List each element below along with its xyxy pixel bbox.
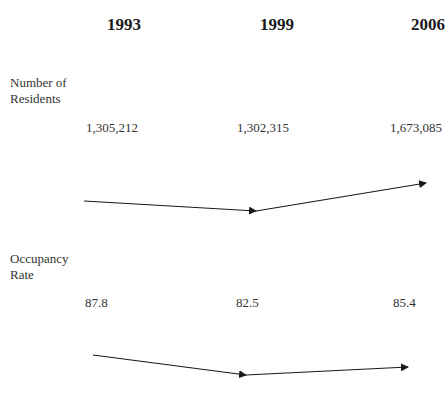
- occupancy-trend-arrow-down: [93, 355, 246, 375]
- residents-trend-arrow-up: [256, 183, 426, 211]
- residents-trend-arrow-down: [84, 201, 256, 211]
- trend-arrows: [0, 0, 447, 395]
- occupancy-trend-arrow-up: [246, 367, 408, 375]
